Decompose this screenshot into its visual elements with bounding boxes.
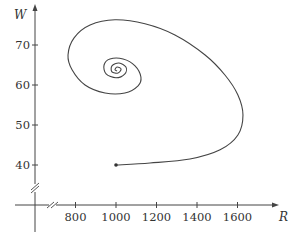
x-axis-label: R	[278, 210, 288, 224]
y-axis-arrow-icon	[33, 4, 38, 11]
x-tick-label: 1200	[142, 210, 171, 224]
x-tick-label: 1400	[182, 210, 211, 224]
y-axis-break-icon	[31, 183, 39, 193]
y-tick-label: 40	[15, 158, 30, 172]
y-tick-label: 50	[15, 118, 30, 132]
start-point-marker	[114, 163, 118, 167]
trajectory-curve	[68, 20, 243, 165]
y-tick-label: 60	[15, 78, 30, 92]
x-tick-label: 1000	[101, 210, 130, 224]
x-tick-label: 800	[65, 210, 87, 224]
x-tick-label: 1600	[223, 210, 252, 224]
x-axis-arrow-icon	[272, 203, 279, 208]
y-tick-label: 70	[15, 38, 30, 52]
phase-plot: 800100012001400160040506070 R W	[0, 0, 294, 234]
axes	[15, 4, 279, 232]
y-axis-label: W	[14, 8, 28, 22]
